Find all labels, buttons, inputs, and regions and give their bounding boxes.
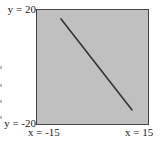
edge-artifact bbox=[0, 84, 2, 87]
data-line bbox=[61, 19, 132, 110]
y-max-label: y = 20 bbox=[8, 4, 36, 15]
x-max-label: x = 15 bbox=[125, 127, 153, 138]
edge-artifact bbox=[0, 66, 2, 69]
edge-artifact bbox=[0, 116, 2, 119]
x-min-label: x = -15 bbox=[28, 127, 60, 138]
line-series bbox=[36, 9, 149, 125]
edge-artifact bbox=[0, 100, 2, 103]
